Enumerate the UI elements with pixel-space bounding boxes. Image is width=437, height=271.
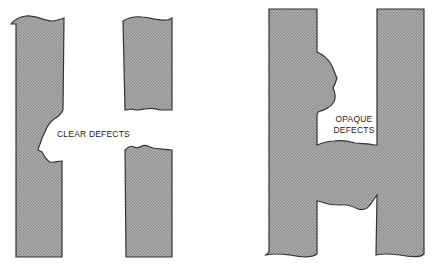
- defects-diagram: CLEAR DEFECTS OPAQUE DEFECTS: [0, 0, 437, 271]
- opaque-defects-label-line-2: DEFECTS: [327, 125, 381, 136]
- right-upper-conductor-bar: [123, 17, 172, 110]
- opaque-defects-label-line-1: OPAQUE: [327, 114, 381, 125]
- opaque-defects-label: OPAQUE DEFECTS: [327, 114, 381, 136]
- right-lower-conductor-bar: [125, 145, 172, 257]
- clear-defects-label: CLEAR DEFECTS: [57, 129, 130, 140]
